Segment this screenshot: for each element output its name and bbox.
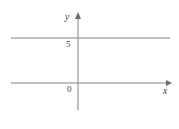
y-axis-arrowhead <box>75 12 81 19</box>
x-axis-label: x <box>163 87 167 97</box>
origin-label: 0 <box>67 85 72 94</box>
y-tick-label-5: 5 <box>66 40 71 49</box>
coordinate-plane-svg <box>0 0 179 129</box>
graph-figure: y x 5 0 <box>0 0 179 129</box>
y-axis-label: y <box>65 13 69 23</box>
